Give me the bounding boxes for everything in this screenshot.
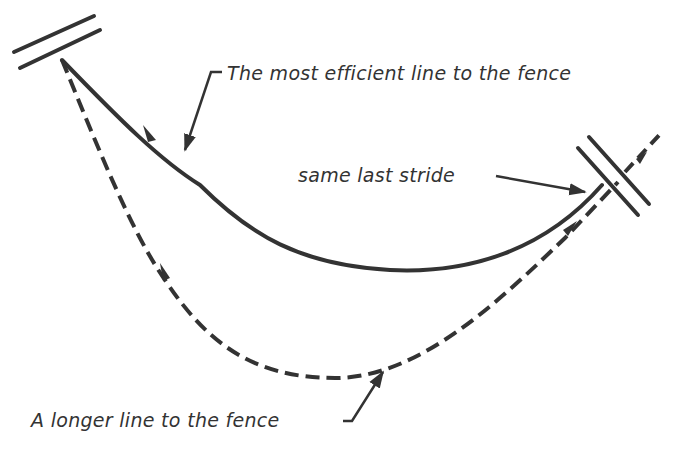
efficient-line-direction-arrow-icon	[143, 125, 156, 142]
efficient-line-label: The most efficient line to the fence	[227, 64, 571, 83]
start-fence	[14, 16, 100, 68]
longer-line-leader	[343, 372, 383, 421]
efficient-line-leader	[185, 72, 222, 150]
same-last-stride-label: same last stride	[298, 166, 455, 185]
same-last-stride-leader	[496, 176, 585, 192]
longer-line-label: A longer line to the fence	[31, 411, 280, 430]
longer-line	[62, 60, 618, 378]
longer-line-continuation	[625, 132, 662, 172]
target-fence	[578, 137, 649, 215]
